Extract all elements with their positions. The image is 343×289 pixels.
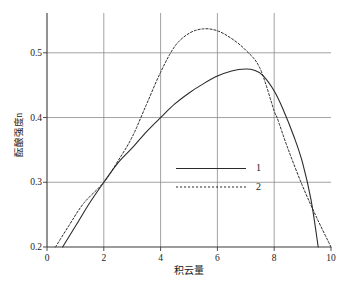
y-tick-label: 0.2 bbox=[18, 242, 42, 252]
y-axis-title: 酝酿强度n bbox=[11, 90, 25, 180]
plot-background bbox=[47, 13, 331, 247]
chart-figure: 0246810 0.20.30.40.5 积云量 酝酿强度n 12 bbox=[0, 0, 343, 289]
legend-label-1: 1 bbox=[256, 162, 261, 173]
legend-label-2: 2 bbox=[256, 181, 261, 192]
x-tick-label: 8 bbox=[272, 253, 277, 263]
y-tick-label: 0.5 bbox=[18, 48, 42, 58]
x-tick-label: 10 bbox=[326, 253, 336, 263]
chart-plot-area bbox=[0, 0, 343, 289]
x-tick-label: 4 bbox=[158, 253, 163, 263]
x-tick-label: 2 bbox=[101, 253, 106, 263]
x-tick-label: 0 bbox=[45, 253, 50, 263]
x-tick-label: 6 bbox=[215, 253, 220, 263]
x-axis-title: 积云量 bbox=[174, 262, 204, 277]
